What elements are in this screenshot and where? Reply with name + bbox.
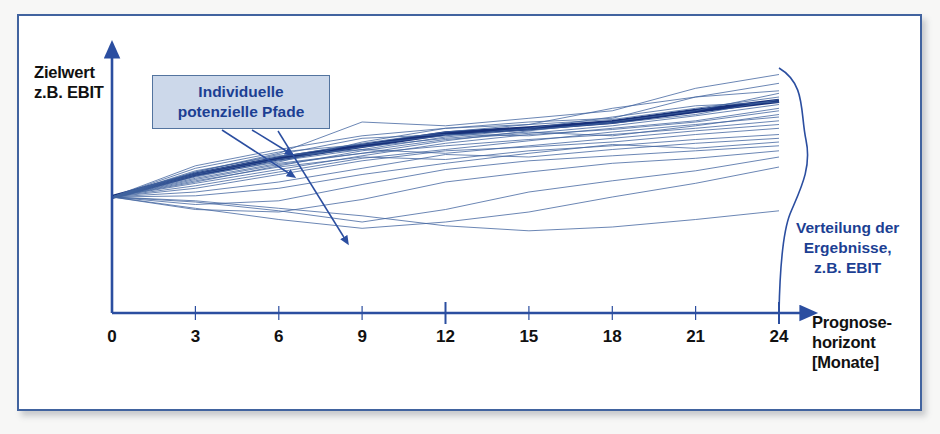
simulation-path (112, 151, 779, 212)
simulation-path (112, 135, 779, 198)
y-axis-label: Zielwert z.B. EBIT (34, 62, 104, 102)
x-tick-label-6: 6 (274, 327, 283, 347)
x-tick-label-12: 12 (436, 327, 455, 347)
x-axis-label: Prognose- horizont [Monate] (812, 312, 892, 372)
callout-arrows (222, 130, 345, 239)
x-tick-label-24: 24 (770, 327, 789, 347)
x-tick-label-21: 21 (686, 327, 705, 347)
simulation-path (112, 117, 779, 197)
callout-label: Individuelle potenzielle Pfade (178, 82, 305, 121)
x-tick-label-15: 15 (519, 327, 538, 347)
callout-box: Individuelle potenzielle Pfade (152, 75, 330, 129)
simulation-chart (0, 0, 940, 434)
simulation-path (112, 157, 779, 222)
x-tick-label-0: 0 (107, 327, 116, 347)
simulation-path (112, 197, 779, 231)
distribution-label: Verteilung der Ergebnisse, z.B. EBIT (796, 218, 899, 278)
callout-arrow-2 (252, 130, 288, 152)
screenshot-root: Zielwert z.B. EBIT Prognose- horizont [M… (0, 0, 940, 434)
x-tick-label-18: 18 (603, 327, 622, 347)
x-tick-label-3: 3 (191, 327, 200, 347)
x-tick-label-9: 9 (357, 327, 366, 347)
